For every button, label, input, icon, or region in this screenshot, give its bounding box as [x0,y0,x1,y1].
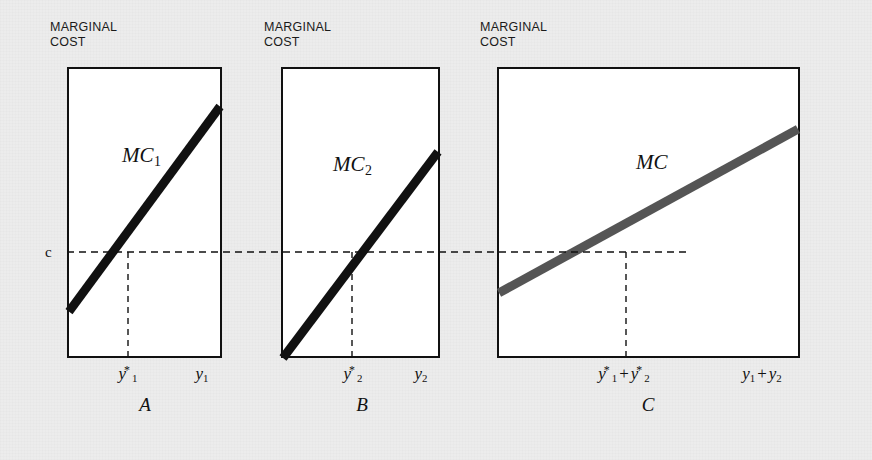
mc1-label: MC1 [122,143,161,168]
cost-level-label-a: c [45,244,52,261]
figure-marginal-cost-panels: MARGINAL COST MC1 c y*1 y1 A MARGINAL CO… [0,0,872,460]
plot-box-a [67,67,222,358]
plot-box-b [281,67,440,358]
panel-letter-c: C [642,394,655,416]
x-tick-max-c: y1+y2 [742,364,782,384]
plot-box-c [497,67,800,358]
x-tick-optimum-a: y*1 [119,364,138,384]
x-tick-max-b: y2 [415,364,428,384]
panel-letter-b: B [356,394,368,416]
x-tick-optimum-c: y*1+y*2 [598,364,649,384]
axis-title-b: MARGINAL COST [264,20,331,50]
x-tick-max-a: y1 [196,364,209,384]
axis-title-a: MARGINAL COST [50,20,117,50]
panel-letter-a: A [139,394,151,416]
mc-aggregate-label: MC [636,150,668,175]
axis-title-c: MARGINAL COST [480,20,547,50]
x-tick-optimum-b: y*2 [344,364,363,384]
mc2-label: MC2 [333,152,372,177]
mc1-curve [69,69,220,356]
mc-aggregate-curve [499,69,798,356]
mc2-curve [283,69,438,356]
